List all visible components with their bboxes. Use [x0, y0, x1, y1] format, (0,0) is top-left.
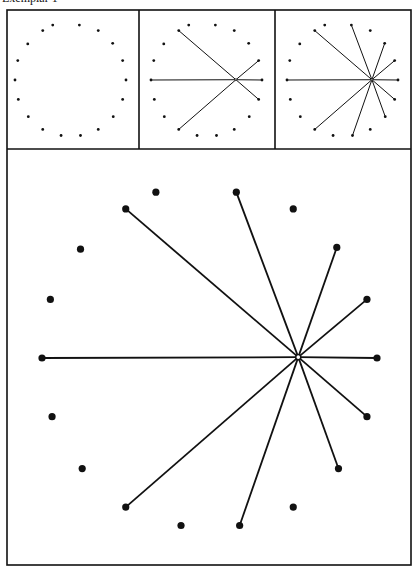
ring-dot: [257, 59, 260, 62]
ring-dot: [247, 42, 250, 45]
ring-dot: [393, 59, 396, 62]
ring-dot: [121, 98, 124, 101]
ring-dot: [26, 43, 29, 46]
ring-dot: [351, 134, 354, 137]
chord-line: [42, 357, 298, 358]
diagram-panels: [14, 24, 400, 529]
ring-dot: [14, 79, 17, 82]
ring-dot: [298, 43, 301, 46]
ring-dot: [335, 465, 342, 472]
ring-dot: [16, 59, 19, 62]
chord-line: [236, 61, 259, 80]
ring-dot: [363, 413, 370, 420]
ring-dot: [373, 354, 380, 361]
ring-dot: [17, 98, 20, 101]
ring-dot: [369, 29, 372, 32]
ring-dot: [261, 79, 264, 82]
ring-dot: [60, 134, 63, 137]
ring-dot: [122, 503, 129, 510]
hub-point: [235, 79, 237, 81]
ring-dot: [290, 205, 297, 212]
ring-dot: [41, 29, 44, 32]
chord-line: [126, 209, 299, 357]
ring-dot: [233, 29, 236, 32]
ring-dot: [47, 296, 54, 303]
ring-dot: [97, 29, 100, 32]
ring-dot: [397, 79, 400, 82]
ring-dot: [187, 24, 190, 27]
ring-dot: [350, 24, 353, 27]
ring-dot: [153, 98, 156, 101]
ring-dot: [152, 189, 159, 196]
hub-point: [371, 79, 373, 81]
ring-dot: [332, 134, 335, 137]
ring-dot: [177, 128, 180, 131]
ring-dot: [122, 205, 129, 212]
ring-dot: [323, 24, 326, 27]
ring-dot: [112, 115, 115, 118]
ring-dot: [233, 128, 236, 131]
ring-dot: [290, 503, 297, 510]
ring-dot: [152, 59, 155, 62]
ring-dot: [393, 98, 396, 101]
chord-line: [236, 192, 298, 357]
ring-dot: [289, 98, 292, 101]
panel-frame: [7, 10, 411, 565]
ring-dot: [41, 128, 44, 131]
ring-dot: [257, 98, 260, 101]
ring-dot: [125, 79, 128, 82]
ring-dot: [111, 42, 114, 45]
ring-dot: [233, 189, 240, 196]
chord-line: [236, 80, 259, 100]
ring-dot: [38, 354, 45, 361]
ring-dot: [162, 43, 165, 46]
ring-dot: [214, 24, 217, 27]
ring-dot: [248, 115, 251, 118]
ring-dot: [27, 115, 30, 118]
chord-diagram-figure: [0, 0, 414, 567]
panel-1-dots-only: [14, 24, 128, 137]
ring-dot: [177, 29, 180, 32]
ring-dot: [196, 134, 199, 137]
ring-dot: [48, 413, 55, 420]
ring-dot: [313, 128, 316, 131]
ring-dot: [163, 115, 166, 118]
ring-dot: [78, 24, 81, 27]
ring-dot: [384, 115, 387, 118]
panel-4-large-ten-lines: [38, 189, 380, 530]
ring-dot: [51, 24, 54, 27]
ring-dot: [383, 42, 386, 45]
ring-dot: [79, 134, 82, 137]
ring-dot: [97, 128, 100, 131]
ring-dot: [79, 465, 86, 472]
panel-2-six-lines: [150, 24, 264, 137]
ring-dot: [121, 59, 124, 62]
ring-dot: [313, 29, 316, 32]
ring-dot: [215, 134, 218, 137]
chord-line: [179, 80, 236, 130]
ring-dot: [363, 296, 370, 303]
chord-line: [298, 357, 377, 358]
panel-3-ten-lines: [286, 24, 400, 137]
ring-dot: [333, 244, 340, 251]
ring-dot: [369, 128, 372, 131]
ring-dot: [299, 115, 302, 118]
ring-dot: [77, 246, 84, 253]
ring-dot: [288, 59, 291, 62]
ring-dot: [177, 522, 184, 529]
chord-line: [315, 31, 372, 80]
hub-point: [296, 355, 301, 360]
chord-line: [179, 31, 236, 80]
ring-dot: [236, 522, 243, 529]
outer-border: [7, 10, 411, 565]
ring-dot: [150, 79, 153, 82]
ring-dot: [286, 79, 289, 82]
